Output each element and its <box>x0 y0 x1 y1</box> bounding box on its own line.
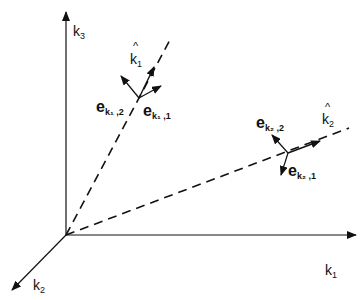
e-k2-1-label: ek₂ ,1 <box>288 163 316 181</box>
k1-axis-label: k1 <box>325 263 337 280</box>
diagram-canvas <box>0 0 363 300</box>
k1-direction-line <box>66 38 171 235</box>
e-k2-2-arrow <box>272 135 288 153</box>
k1hat-label: k1 <box>130 52 142 69</box>
e-k1-2-label: ek₁ ,2 <box>96 99 124 117</box>
k2hat-label: k2 <box>322 112 334 129</box>
k2-direction-line <box>66 128 349 235</box>
k2hat-arrow <box>288 141 320 153</box>
k2-axis-label: k2 <box>33 278 45 295</box>
e-k1-1-label: ek₁ ,1 <box>143 103 171 121</box>
e-k1-2-arrow <box>121 76 139 98</box>
k3-axis-label: k3 <box>73 24 85 41</box>
e-k2-1-arrow <box>281 153 288 175</box>
e-k2-2-label: ek₂ ,2 <box>256 115 284 133</box>
